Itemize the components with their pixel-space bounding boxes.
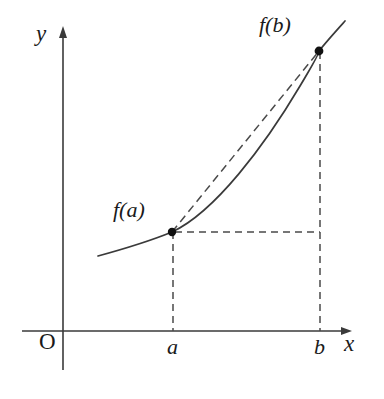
chord-secant-line [172, 51, 319, 232]
x-tick-label-b: b [314, 336, 325, 358]
y-axis [59, 26, 67, 370]
x-axis [22, 327, 352, 335]
point-label-fa: f(a) [113, 199, 145, 221]
y-axis-arrowhead-icon [59, 26, 67, 38]
x-axis-label: x [344, 332, 354, 355]
x-tick-label-a: a [167, 336, 178, 358]
y-axis-label: y [36, 22, 46, 45]
origin-label: O [39, 330, 56, 353]
point-marker-a [168, 228, 176, 236]
diagram-canvas [0, 0, 384, 399]
point-label-fb: f(b) [259, 14, 291, 36]
point-marker-b [315, 47, 324, 56]
function-convexity-diagram: y x O a b f(a) f(b) [0, 0, 384, 399]
guide-lines [173, 52, 320, 331]
